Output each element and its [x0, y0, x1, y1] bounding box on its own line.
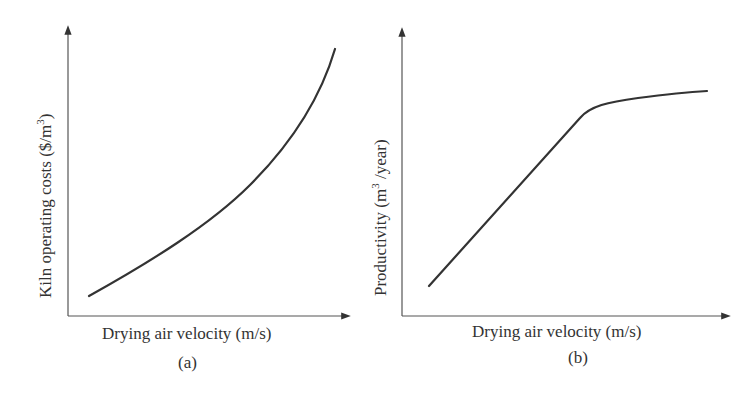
x-axis-label: Drying air velocity (m/s)	[102, 324, 272, 344]
chart-panel-a: Kiln operating costs ($/m3) Drying air v…	[0, 0, 378, 401]
cost-curve	[89, 49, 335, 296]
y-axis-label: Productivity (m3 /year)	[369, 139, 391, 296]
chart-panel-b: Productivity (m3 /year) Drying air veloc…	[378, 0, 756, 401]
productivity-curve	[429, 91, 707, 286]
panel-label: (a)	[178, 353, 197, 373]
x-axis-label: Drying air velocity (m/s)	[472, 322, 642, 342]
y-axis-label: Kiln operating costs ($/m3)	[34, 114, 56, 298]
panel-label: (b)	[568, 348, 588, 368]
